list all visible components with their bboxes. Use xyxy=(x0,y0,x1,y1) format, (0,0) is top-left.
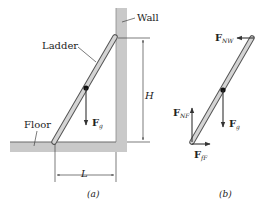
floor-label: Floor xyxy=(24,120,51,130)
height-label: H xyxy=(145,91,154,101)
length-label: L xyxy=(81,169,88,179)
panel-b xyxy=(192,38,254,144)
weight-force-label-b: Fg xyxy=(229,119,240,130)
caption-a: (a) xyxy=(87,190,99,199)
friction-force-label: FfF xyxy=(194,150,208,161)
floor-shape xyxy=(10,142,127,152)
ladder-label: Ladder xyxy=(42,41,78,51)
normal-wall-force-label: FNW xyxy=(215,33,234,44)
wall-label: Wall xyxy=(137,13,159,23)
ladder-diagram xyxy=(0,0,262,207)
weight-force-label: Fg xyxy=(92,118,103,129)
caption-b: (b) xyxy=(219,190,232,199)
panel-a xyxy=(10,8,150,182)
wall-shape xyxy=(116,8,127,152)
ladder-leader xyxy=(78,47,96,62)
normal-floor-force-label: FNF xyxy=(173,108,190,119)
